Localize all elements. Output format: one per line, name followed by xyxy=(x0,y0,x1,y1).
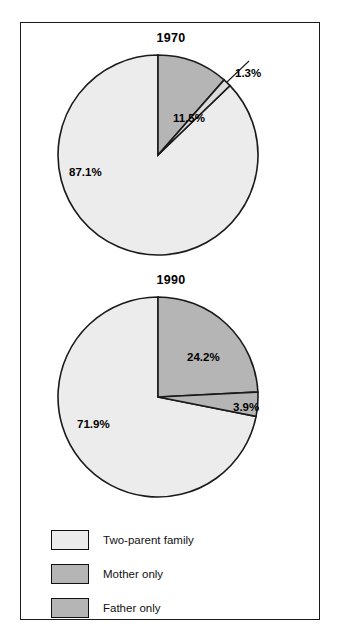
pie-1990-graphic xyxy=(21,287,321,507)
chart-figure-frame: 1970 11.5% 1.3% 87.1% 1990 24.2% xyxy=(20,22,320,620)
chart-legend: Two-parent family Mother only Father onl… xyxy=(51,523,291,625)
legend-swatch-father-only xyxy=(51,598,89,618)
pie-1970-label-mother-only: 11.5% xyxy=(173,112,205,124)
legend-swatch-two-parent-family xyxy=(51,530,89,550)
legend-item-two-parent-family: Two-parent family xyxy=(51,523,291,557)
legend-item-mother-only: Mother only xyxy=(51,557,291,591)
pie-1970-label-two-parent: 87.1% xyxy=(69,166,102,178)
pie-1970-title: 1970 xyxy=(21,31,321,45)
pie-1990-slice-mother-only xyxy=(158,297,258,397)
pie-chart-1990: 1990 24.2% 3.9% 71.9% xyxy=(21,273,321,515)
pie-1970-graphic xyxy=(21,45,321,265)
legend-label-father-only: Father only xyxy=(103,602,161,614)
pie-1990-label-two-parent: 71.9% xyxy=(77,418,110,430)
pie-1990-title: 1990 xyxy=(21,273,321,287)
pie-1990-label-father-only: 3.9% xyxy=(233,401,259,413)
legend-label-mother-only: Mother only xyxy=(103,568,163,580)
legend-swatch-mother-only xyxy=(51,564,89,584)
pie-1970-label-father-only: 1.3% xyxy=(235,67,261,79)
pie-1990-label-mother-only: 24.2% xyxy=(187,351,220,363)
legend-label-two-parent-family: Two-parent family xyxy=(103,534,194,546)
legend-item-father-only: Father only xyxy=(51,591,291,625)
pie-chart-1970: 1970 11.5% 1.3% 87.1% xyxy=(21,31,321,271)
